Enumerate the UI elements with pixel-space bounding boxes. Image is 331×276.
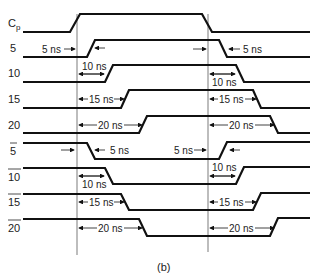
svg-text:15 ns: 15 ns xyxy=(219,197,243,208)
svg-text:5 ns: 5 ns xyxy=(110,145,129,156)
waveform-20-bar xyxy=(23,218,310,236)
svg-text:20 ns: 20 ns xyxy=(229,120,253,131)
waveform-10 xyxy=(23,65,310,82)
figure-caption: (b) xyxy=(157,261,170,273)
svg-text:15 ns: 15 ns xyxy=(89,197,113,208)
svg-text:10 ns: 10 ns xyxy=(82,61,106,72)
label-15-bar: 15 xyxy=(8,196,20,208)
label-20-bar: 20 xyxy=(8,222,20,234)
svg-text:10 ns: 10 ns xyxy=(212,162,236,173)
label-10: 10 xyxy=(8,67,20,79)
waveform-cp xyxy=(23,14,310,32)
waveform-20 xyxy=(23,116,310,133)
svg-text:5 ns: 5 ns xyxy=(174,145,193,156)
svg-text:20 ns: 20 ns xyxy=(98,223,122,234)
svg-text:5 ns: 5 ns xyxy=(243,44,262,55)
waveform-10-bar xyxy=(23,167,310,184)
waveform-5-bar xyxy=(23,142,310,159)
label-5: 5 xyxy=(10,42,16,54)
svg-text:10 ns: 10 ns xyxy=(212,77,236,88)
label-cp: Cp xyxy=(8,17,21,32)
svg-text:20 ns: 20 ns xyxy=(229,223,253,234)
svg-text:15 ns: 15 ns xyxy=(219,94,243,105)
svg-text:20 ns: 20 ns xyxy=(98,120,122,131)
svg-text:15 ns: 15 ns xyxy=(89,94,113,105)
svg-text:5 ns: 5 ns xyxy=(42,44,61,55)
label-10-bar: 10 xyxy=(8,171,20,183)
label-15: 15 xyxy=(8,93,20,105)
label-5-bar: 5 xyxy=(10,145,16,157)
svg-text:10 ns: 10 ns xyxy=(82,179,106,190)
waveform-15 xyxy=(23,90,310,108)
label-20: 20 xyxy=(8,119,20,131)
timing-diagram: Cp 5 10 15 20 5 10 15 20 5 ns 5 ns 10 ns… xyxy=(0,0,331,276)
waveform-15-bar xyxy=(23,193,310,210)
waveform-5 xyxy=(23,40,310,57)
